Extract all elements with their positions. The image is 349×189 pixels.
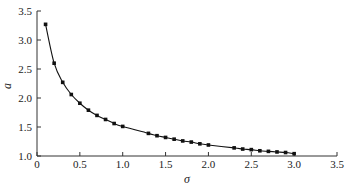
data-point-marker [155,134,159,138]
y-tick-label: 2.5 [18,63,32,75]
x-tick-label: 1.5 [159,158,173,170]
data-point-marker [52,61,56,65]
data-point-marker [284,151,288,155]
y-tick-label: 3.5 [18,5,32,17]
x-tick-label: 1.0 [116,158,130,170]
data-curve [46,24,295,153]
x-tick-label: 3.5 [330,158,344,170]
x-tick-label: 2.0 [202,158,216,170]
data-point-marker [241,147,245,151]
data-point-marker [95,114,99,118]
data-point-marker [78,101,82,105]
data-point-marker [292,152,296,156]
y-tick-label: 1.5 [18,121,32,133]
data-point-marker [275,150,279,154]
data-point-marker [249,148,253,152]
axes [37,11,337,156]
data-point-marker [44,23,48,27]
y-tick-label: 3.0 [18,34,32,46]
line-chart: 00.51.01.52.02.53.03.51.01.52.02.53.03.5… [0,0,349,189]
data-point-marker [189,140,193,144]
data-point-marker [232,146,236,150]
data-point-marker [112,122,116,126]
data-point-marker [258,149,262,153]
data-point-marker [104,118,108,122]
y-tick-label: 1.0 [18,150,32,162]
x-axis-label: σ [184,172,191,186]
data-markers [44,23,296,156]
x-tick-label: 2.5 [244,158,258,170]
data-point-marker [267,150,271,154]
data-point-marker [181,139,185,143]
data-point-marker [61,81,65,85]
x-tick-label: 3.0 [287,158,301,170]
data-point-marker [172,137,176,141]
data-point-marker [147,132,151,136]
data-point-marker [207,143,211,147]
y-axis-label: a [0,83,14,89]
data-point-marker [164,136,168,140]
data-point-marker [69,93,73,97]
axis-ticks: 00.51.01.52.02.53.03.51.01.52.02.53.03.5 [18,5,344,170]
data-point-marker [87,108,91,112]
x-tick-label: 0.5 [73,158,87,170]
y-tick-label: 2.0 [18,92,32,104]
x-tick-label: 0 [34,158,40,170]
data-point-marker [198,142,202,146]
data-point-marker [121,125,125,129]
